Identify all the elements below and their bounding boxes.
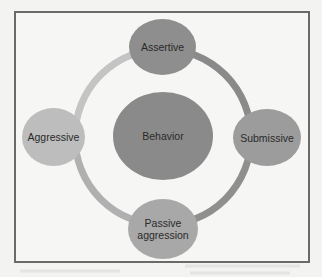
- node-passive-aggression-line1: Passive: [145, 217, 182, 229]
- node-assertive-label: Assertive: [141, 41, 184, 53]
- node-behavior-label: Behavior: [142, 130, 183, 142]
- node-submissive: Submissive: [233, 109, 301, 166]
- node-passive-aggression: Passive aggression: [128, 199, 198, 259]
- node-assertive: Assertive: [129, 19, 196, 75]
- node-passive-aggression-line2: aggression: [137, 229, 188, 241]
- node-aggressive-label: Aggressive: [28, 131, 80, 143]
- node-aggressive: Aggressive: [22, 108, 85, 166]
- node-submissive-label: Submissive: [240, 132, 294, 144]
- node-behavior: Behavior: [113, 92, 213, 180]
